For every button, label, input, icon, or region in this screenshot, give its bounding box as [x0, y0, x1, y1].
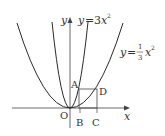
svg-text:2: 2 [107, 12, 111, 19]
parabola-diagram: y y = 3 x 2 y = 1 3 x 2 A D O B C x [0, 0, 165, 136]
steep-parabola-label: y = 3 x 2 [77, 12, 111, 27]
svg-text:3: 3 [94, 14, 101, 27]
x-axis-label: x [124, 110, 131, 123]
svg-text:2: 2 [151, 44, 155, 51]
wide-parabola-label: y = 1 3 x 2 [119, 43, 155, 62]
y-axis-label: y [60, 14, 68, 27]
origin-label: O [60, 110, 68, 121]
y-axis-arrow-icon [68, 17, 73, 23]
svg-text:1: 1 [138, 43, 142, 51]
point-c-label: C [92, 117, 100, 128]
point-a-label: A [70, 79, 79, 90]
svg-text:y: y [77, 14, 85, 27]
svg-text:=: = [85, 14, 94, 27]
svg-text:=: = [127, 46, 136, 59]
point-b-label: B [76, 117, 83, 128]
svg-text:3: 3 [138, 54, 142, 62]
svg-text:y: y [119, 46, 127, 59]
point-d-label: D [99, 86, 107, 97]
